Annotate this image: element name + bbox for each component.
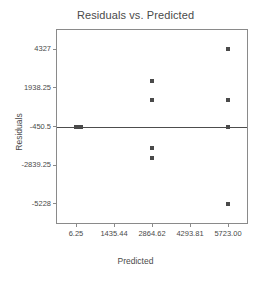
data-point: [150, 146, 154, 150]
plot-area: Residuals43271938.25-450.5-2839.25-52286…: [56, 29, 248, 224]
x-axis-title: Predicted: [0, 256, 271, 266]
data-point: [150, 156, 154, 160]
y-tick-label: 4327: [34, 43, 51, 54]
zero-reference-line: [57, 127, 247, 128]
y-tick-label: -2839.25: [21, 159, 51, 170]
x-tick-mark: [76, 223, 77, 227]
y-tick-mark: [53, 87, 57, 88]
x-tick-label: 5723.00: [198, 229, 258, 238]
y-tick-mark: [53, 126, 57, 127]
data-point: [79, 125, 83, 129]
x-tick-mark: [228, 223, 229, 227]
residuals-scatter-chart: Residuals vs. Predicted Residuals4327193…: [0, 0, 271, 284]
y-tick-mark: [53, 165, 57, 166]
x-tick-mark: [114, 223, 115, 227]
data-point: [226, 47, 230, 51]
data-point: [150, 79, 154, 83]
y-tick-label: -450.5: [30, 121, 51, 132]
y-tick-mark: [53, 49, 57, 50]
data-point: [226, 125, 230, 129]
x-tick-mark: [190, 223, 191, 227]
y-tick-label: -5228: [32, 198, 51, 209]
y-tick-label: 1938.25: [24, 82, 51, 93]
data-point: [150, 98, 154, 102]
data-point: [226, 98, 230, 102]
data-point: [226, 202, 230, 206]
x-tick-mark: [152, 223, 153, 227]
y-tick-mark: [53, 203, 57, 204]
chart-title: Residuals vs. Predicted: [0, 9, 271, 21]
